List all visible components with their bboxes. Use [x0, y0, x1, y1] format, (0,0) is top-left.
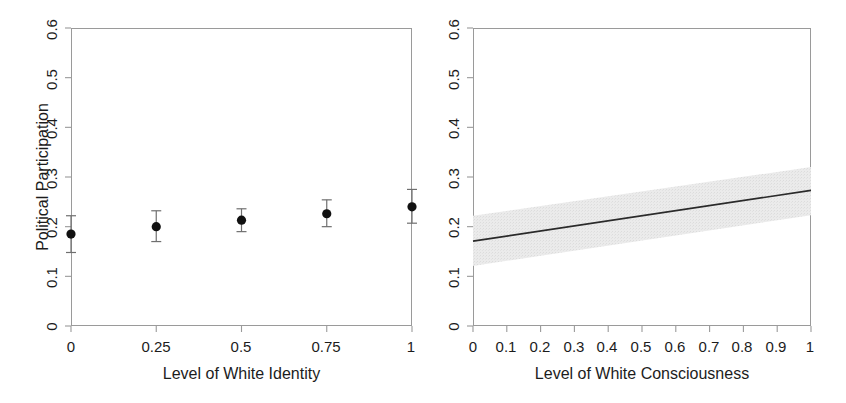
panel-left-white-identity: Political Participation 0 0.1 0.2 0.3 0.…	[0, 0, 423, 403]
axis-tick-marks-left	[65, 28, 412, 332]
plot-canvas-right	[423, 0, 846, 403]
figure-two-panel-plot: Political Participation 0 0.1 0.2 0.3 0.…	[0, 0, 846, 403]
data-points-with-error-bars-left	[66, 189, 417, 252]
panel-right-white-consciousness: 0 0.1 0.2 0.3 0.4 0.5 0.6 0 0.1 0.2 0.3 …	[423, 0, 846, 403]
plot-canvas-left	[0, 0, 423, 403]
